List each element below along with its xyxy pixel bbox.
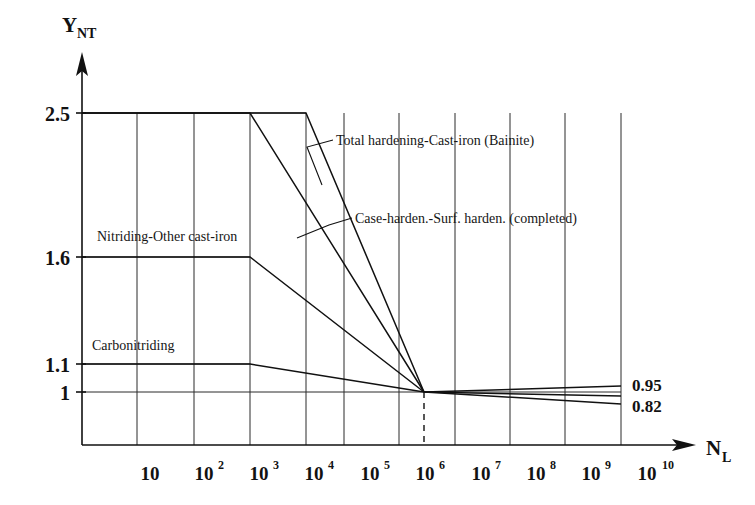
x-tick-base-5: 10 [416,463,435,484]
x-tick-base-4: 10 [361,463,380,484]
y-tick-marks [76,113,86,392]
x-tick-labels: 10 10 2 10 3 10 4 10 5 10 6 [141,458,675,484]
curve-carbonitriding [82,364,424,392]
y-axis [76,52,88,445]
endpoint-label-0p95: 0.95 [632,376,662,395]
x-tick-exp-7: 8 [550,458,556,472]
x-tick-label-1e4: 10 4 [305,458,335,484]
x-tick-base-6: 10 [472,463,491,484]
y-axis-title: Y NT [62,13,97,41]
x-tick-label-1e3: 10 3 [250,458,280,484]
x-tick-base-9: 10 [638,463,657,484]
x-axis [82,439,696,451]
x-axis-title-main: N [706,436,721,460]
x-tick-label-1e5: 10 5 [361,458,391,484]
y-tick-label-1p1: 1.1 [45,354,70,376]
y-tick-labels: 2.5 1.6 1.1 1 [45,103,70,404]
x-tick-base-1: 10 [195,463,214,484]
x-tick-label-1e10: 10 10 [638,458,675,484]
gear-life-factor-chart: Y NT N L 2.5 1.6 1.1 1 10 10 2 10 [0,0,755,505]
x-tick-exp-4: 5 [384,458,390,472]
x-tick-base-8: 10 [582,463,601,484]
x-tick-base-7: 10 [527,463,546,484]
x-tick-label-1e7: 10 7 [472,458,502,484]
y-tick-label-1p6: 1.6 [45,247,70,269]
y-tick-label-2p5: 2.5 [45,103,70,125]
label-carbonitriding: Carbonitriding [92,338,174,353]
label-nitriding: Nitriding-Other cast-iron [97,229,237,244]
y-tick-label-1: 1 [60,382,70,404]
x-tick-base-3: 10 [305,463,324,484]
chart-container: Y NT N L 2.5 1.6 1.1 1 10 10 2 10 [0,0,755,505]
x-tick-label-1e8: 10 8 [527,458,557,484]
x-tick-exp-2: 3 [273,458,279,472]
x-axis-title: N L [706,436,731,465]
x-tick-exp-5: 6 [439,458,445,472]
x-tick-label-10: 10 [141,463,160,484]
y-axis-title-sub: NT [77,26,97,41]
y-axis-title-main: Y [62,13,77,37]
label-case-harden: Case-harden.-Surf. harden. (completed) [355,211,577,227]
x-tick-label-1e9: 10 9 [582,458,612,484]
x-tick-label-1e6: 10 6 [416,458,446,484]
curve-nitriding [82,257,424,392]
x-tick-exp-8: 9 [605,458,611,472]
x-tick-exp-1: 2 [218,458,224,472]
x-tick-base-2: 10 [250,463,269,484]
tail-curve-upper [424,386,621,392]
x-tick-base-0: 10 [141,463,160,484]
endpoint-label-0p82: 0.82 [632,397,662,416]
x-axis-title-sub: L [722,450,731,465]
x-tick-exp-6: 7 [495,458,501,472]
label-total-hardening: Total hardening-Cast-iron (Bainite) [336,133,534,149]
x-tick-exp-9: 10 [662,458,674,472]
x-tick-label-1e2: 10 2 [195,458,225,484]
x-tick-exp-3: 4 [328,458,334,472]
